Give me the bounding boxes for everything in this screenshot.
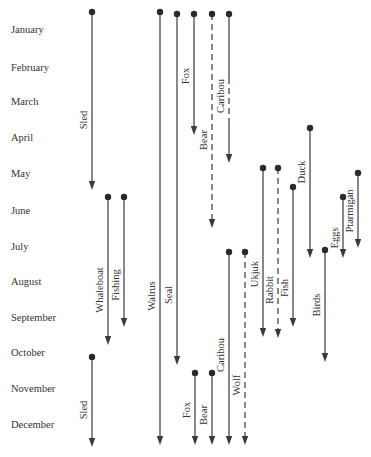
activity-label: Ptarmigan	[344, 189, 355, 233]
start-dot-icon	[191, 11, 197, 17]
arrow-down-icon	[157, 436, 163, 445]
activity-label: Fishing	[110, 268, 121, 300]
activity-sled-0: Sled	[78, 9, 95, 190]
activity-label: Seal	[163, 286, 174, 304]
arrow-down-icon	[121, 318, 127, 327]
start-dot-icon	[322, 247, 328, 253]
activity-rabbit-11: Rabbit	[264, 165, 281, 338]
activity-label: Bear	[198, 405, 209, 425]
activity-label: Walrus	[146, 281, 157, 310]
arrow-down-icon	[242, 436, 248, 445]
arrow-down-icon	[290, 318, 296, 327]
arrow-down-icon	[209, 436, 215, 445]
start-dot-icon	[275, 165, 281, 171]
start-dot-icon	[226, 249, 232, 255]
start-dot-icon	[290, 184, 296, 190]
activity-bear-4: Bear	[198, 11, 215, 228]
start-dot-icon	[355, 170, 361, 176]
arrow-down-icon	[89, 438, 95, 447]
activity-caribou-16: Caribou	[215, 249, 232, 445]
activity-label: Caribou	[215, 78, 226, 113]
start-dot-icon	[174, 11, 180, 17]
activity-label: Sled	[78, 110, 89, 129]
activity-walrus-1: Walrus	[146, 9, 163, 445]
activity-caribou-5: Caribou	[215, 11, 232, 163]
start-dot-icon	[121, 194, 127, 200]
activity-label: Whaleboat	[94, 267, 105, 313]
activity-seal-2: Seal	[163, 11, 180, 365]
activity-ukjuk-10: Ukjuk	[249, 165, 266, 337]
activity-label: Caribou	[215, 337, 226, 372]
activity-label: Duck	[296, 160, 307, 183]
start-dot-icon	[89, 354, 95, 360]
start-dot-icon	[209, 11, 215, 17]
start-dot-icon	[105, 194, 111, 200]
activity-label: Rabbit	[264, 276, 275, 304]
arrow-down-icon	[174, 356, 180, 365]
arrow-down-icon	[226, 436, 232, 445]
activity-sled-8: Sled	[78, 354, 95, 447]
start-dot-icon	[242, 249, 248, 255]
start-dot-icon	[192, 370, 198, 376]
activity-fish-12: Fish	[279, 184, 296, 327]
start-dot-icon	[307, 125, 313, 131]
arrow-down-icon	[340, 249, 346, 258]
arrow-down-icon	[105, 336, 111, 345]
activity-label: Wolf	[231, 374, 242, 395]
activity-label: Birds	[311, 294, 322, 317]
arrow-down-icon	[355, 239, 361, 248]
activity-wolf-17: Wolf	[231, 249, 248, 445]
activity-ptarmigan-14: Ptarmigan	[344, 170, 361, 248]
activity-label: Bear	[198, 130, 209, 150]
start-dot-icon	[260, 165, 266, 171]
activity-label: Ukjuk	[249, 260, 260, 287]
seasonal-activity-diagram: JanuaryFebruaryMarchAprilMayJuneJulyAugu…	[0, 0, 371, 457]
activity-label: Fox	[180, 67, 191, 84]
arrow-down-icon	[89, 181, 95, 190]
arrow-down-icon	[275, 329, 281, 338]
activity-duck-9: Duck	[296, 125, 313, 258]
start-dot-icon	[226, 11, 232, 17]
start-dot-icon	[209, 370, 215, 376]
activity-whaleboat-6: Whaleboat	[94, 194, 111, 345]
activity-fox-18: Fox	[181, 370, 198, 445]
arrow-down-icon	[307, 249, 313, 258]
start-dot-icon	[157, 9, 163, 15]
start-dot-icon	[89, 9, 95, 15]
activity-birds-15: Birds	[311, 247, 328, 362]
arrow-down-icon	[191, 126, 197, 135]
activity-label: Eggs	[329, 228, 340, 249]
activity-fishing-7: Fishing	[110, 194, 127, 327]
activity-label: Sled	[78, 400, 89, 419]
arrow-down-icon	[260, 328, 266, 337]
arrow-down-icon	[209, 219, 215, 228]
arrow-down-icon	[192, 436, 198, 445]
activity-bear-19: Bear	[198, 370, 215, 445]
activity-label: Fish	[279, 278, 290, 297]
activity-fox-3: Fox	[180, 11, 197, 135]
activity-label: Fox	[181, 401, 192, 418]
arrow-down-icon	[322, 353, 328, 362]
arrow-down-icon	[226, 154, 232, 163]
activity-lines: SledWalrusSealFoxBearCaribouWhaleboatFis…	[0, 0, 371, 457]
